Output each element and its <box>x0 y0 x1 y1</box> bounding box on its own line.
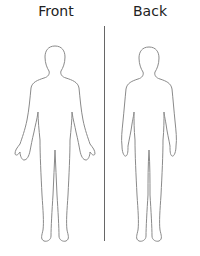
back-body-outline[interactable] <box>0 0 200 256</box>
